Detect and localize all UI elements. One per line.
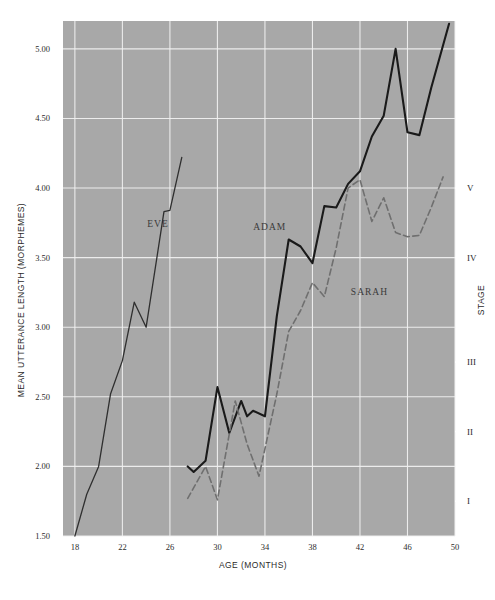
stage-axis-title: STAGE <box>476 285 486 315</box>
series-label-adam: ADAM <box>253 222 286 232</box>
y-tick-label: 1.50 <box>35 531 50 541</box>
x-tick-label: 18 <box>71 542 80 552</box>
x-tick-label: 38 <box>308 542 317 552</box>
y-tick-label: 4.00 <box>35 183 50 193</box>
y-tick-label: 5.00 <box>35 44 50 54</box>
series-label-eve: EVE <box>147 219 168 229</box>
x-tick-label: 50 <box>451 542 460 552</box>
x-tick-label: 30 <box>213 542 222 552</box>
mlu-by-age-line-chart: 1.502.002.503.003.504.004.505.00 1822263… <box>0 0 495 600</box>
stage-tick-label: V <box>467 183 474 193</box>
stage-tick-label: IV <box>467 253 477 263</box>
stage-tick-label: III <box>467 357 476 367</box>
y-tick-label: 3.00 <box>35 322 50 332</box>
x-tick-label: 22 <box>118 542 127 552</box>
x-tick-label: 46 <box>403 542 412 552</box>
y-tick-label: 2.00 <box>35 461 50 471</box>
x-tick-label: 42 <box>356 542 365 552</box>
x-tick-label: 34 <box>261 542 270 552</box>
x-tick-label: 26 <box>166 542 175 552</box>
plot-rect <box>63 21 455 536</box>
x-axis-title: AGE (MONTHS) <box>219 560 287 570</box>
series-label-sarah: SARAH <box>351 287 388 297</box>
stage-tick-label: I <box>467 496 470 506</box>
stage-tick-label: II <box>467 427 473 437</box>
y-tick-label: 4.50 <box>35 113 50 123</box>
y-tick-label: 2.50 <box>35 392 50 402</box>
chart-figure: 1.502.002.503.003.504.004.505.00 1822263… <box>0 0 495 600</box>
y-axis-title: MEAN UTTERANCE LENGTH (MORPHEMES) <box>16 203 26 397</box>
plot-area-background <box>63 21 455 536</box>
y-tick-label: 3.50 <box>35 253 50 263</box>
